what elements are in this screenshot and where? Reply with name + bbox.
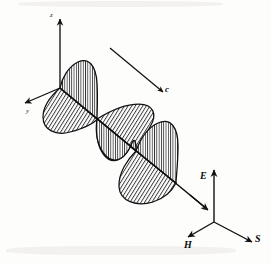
E-vector-label: E	[200, 171, 207, 181]
axis-group-right	[188, 170, 252, 242]
y-axis-label: y	[26, 108, 29, 115]
S-vector-label: S	[255, 234, 261, 244]
H-vector-label: H	[184, 240, 192, 250]
c-vector-label: c	[165, 85, 169, 94]
x-axis-label: x	[203, 205, 206, 212]
z-axis-label: z	[50, 12, 53, 19]
H-vector-line	[188, 222, 214, 237]
c-vector-line	[110, 48, 163, 92]
S-vector-line	[214, 222, 252, 242]
em-wave-figure: z y x E H S c	[0, 0, 271, 264]
axis-group-left	[25, 19, 60, 103]
em-wave-canvas	[0, 0, 271, 264]
